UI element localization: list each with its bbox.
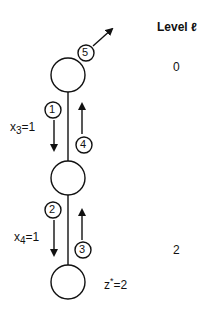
level-2: 2 xyxy=(173,243,180,257)
edge-label-x3: x3=1 xyxy=(10,120,35,136)
step-4-label: 4 xyxy=(80,138,86,150)
search-tree-diagram xyxy=(0,0,202,312)
step-5-label: 5 xyxy=(82,46,88,58)
node-middle xyxy=(51,161,85,195)
step-2-label: 2 xyxy=(49,203,55,215)
node-root xyxy=(51,58,85,92)
optimal-value-label: z*=2 xyxy=(104,276,127,292)
level-0: 0 xyxy=(173,60,180,74)
level-header: Level ℓ xyxy=(157,20,197,34)
edge-label-x4: x4=1 xyxy=(14,230,39,246)
step-3-label: 3 xyxy=(79,243,85,255)
step-1-label: 1 xyxy=(49,103,55,115)
node-leaf xyxy=(51,265,85,299)
